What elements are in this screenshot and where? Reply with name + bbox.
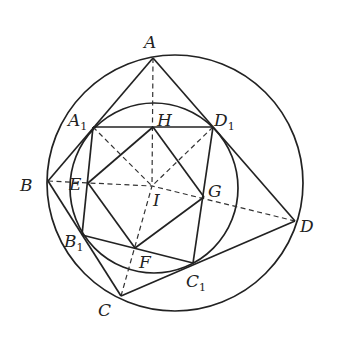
geometry-diagram: A B C D A1 B1 C1 D1 E F G H I — [0, 0, 337, 339]
label-A1: A1 — [66, 110, 87, 133]
solid-lines — [48, 58, 295, 296]
label-A: A — [142, 32, 156, 52]
label-D: D — [299, 216, 314, 236]
segment-D-I — [152, 186, 295, 221]
segment-G-H — [153, 127, 204, 197]
segment-A-I — [152, 58, 153, 186]
label-D1: D1 — [213, 110, 235, 133]
label-C: C — [98, 300, 111, 320]
segment-F-G — [135, 197, 204, 248]
segment-H-E — [88, 127, 153, 183]
dashed-lines — [48, 58, 295, 296]
label-I: I — [152, 190, 160, 210]
label-E: E — [68, 174, 82, 194]
label-C1: C1 — [186, 271, 206, 294]
label-F: F — [138, 252, 152, 272]
label-B1: B1 — [63, 231, 84, 254]
segment-D1-I — [152, 127, 213, 186]
segment-B-I — [48, 181, 152, 186]
segment-C-I — [121, 186, 152, 296]
segment-D-A — [153, 58, 295, 221]
segment-B1-C1 — [82, 235, 193, 263]
label-B: B — [19, 175, 33, 195]
label-G: G — [208, 181, 222, 201]
label-H: H — [156, 110, 173, 130]
